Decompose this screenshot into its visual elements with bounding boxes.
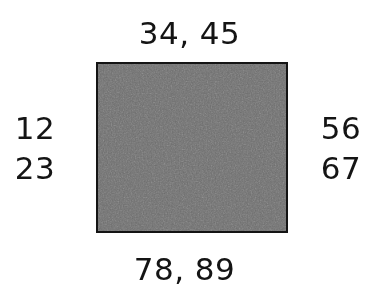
- rectangle-texture: [98, 64, 288, 233]
- label-right-value-1: 56: [321, 113, 361, 144]
- figure-canvas: 34, 45 12 23 56 67 78, 89: [0, 0, 377, 304]
- label-bottom: 78, 89: [0, 254, 373, 285]
- label-left-value-1: 12: [15, 113, 55, 144]
- label-left-value-2: 23: [15, 153, 55, 184]
- rectangle-shape: [96, 62, 288, 233]
- label-right: 56 67: [318, 113, 364, 184]
- label-left: 12 23: [12, 113, 58, 184]
- label-right-value-2: 67: [321, 153, 361, 184]
- label-top: 34, 45: [1, 18, 377, 49]
